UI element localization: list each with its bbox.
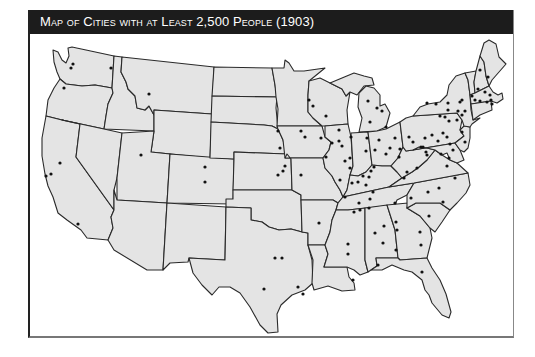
city-dot: [421, 145, 424, 148]
city-dot: [366, 99, 369, 102]
city-dot: [380, 109, 383, 112]
city-dot: [109, 66, 112, 69]
us-map: [2, 0, 535, 357]
city-dot: [486, 75, 489, 78]
city-dot: [411, 140, 414, 143]
city-dot: [371, 190, 374, 193]
city-dot: [324, 114, 327, 117]
city-dot: [456, 109, 459, 112]
city-dot: [460, 98, 463, 101]
city-dot: [424, 150, 427, 153]
city-dot: [373, 148, 376, 151]
city-dot: [489, 98, 492, 101]
city-dot: [203, 180, 206, 183]
city-dot: [348, 166, 351, 169]
city-dot: [367, 206, 370, 209]
city-dot: [398, 147, 401, 150]
city-dot: [376, 263, 379, 266]
city-dot: [460, 113, 463, 116]
city-dot: [463, 109, 466, 112]
city-dot: [476, 87, 479, 90]
map-frame: Map of Cities with at Least 2,500 People…: [28, 10, 514, 338]
city-dot: [349, 135, 352, 138]
city-dot: [418, 230, 421, 233]
city-dot: [455, 118, 458, 121]
city-dot: [451, 148, 454, 151]
city-dot: [394, 220, 397, 223]
city-dot: [448, 142, 451, 145]
city-dot: [273, 256, 276, 259]
city-dot: [44, 174, 47, 177]
state-iowa: [277, 126, 331, 158]
city-dot: [343, 195, 346, 198]
city-dot: [388, 146, 391, 149]
city-dot: [324, 155, 327, 158]
city-dot: [430, 133, 433, 136]
city-dot: [395, 228, 398, 231]
city-dot: [384, 152, 387, 155]
city-dot: [203, 165, 206, 168]
city-dot: [434, 102, 437, 105]
city-dot: [439, 152, 442, 155]
city-dot: [437, 186, 440, 189]
city-dot: [278, 146, 281, 149]
city-dot: [346, 252, 349, 255]
state-florida: [371, 258, 451, 318]
city-dot: [350, 181, 353, 184]
city-dot: [49, 172, 52, 175]
city-dot: [76, 222, 79, 225]
city-dot: [447, 156, 450, 159]
city-dot: [299, 129, 302, 132]
city-dot: [478, 68, 481, 71]
city-dot: [356, 180, 359, 183]
city-dot: [441, 200, 444, 203]
city-dot: [473, 98, 476, 101]
city-dot: [311, 104, 314, 107]
city-dot: [485, 100, 488, 103]
city-dot: [317, 221, 320, 224]
city-dot: [307, 98, 310, 101]
city-dot: [69, 66, 72, 69]
city-dot: [348, 156, 351, 159]
city-dot: [397, 155, 400, 158]
city-dot: [409, 196, 412, 199]
state-colorado: [167, 154, 234, 204]
city-dot: [436, 139, 439, 142]
city-dot: [438, 114, 441, 117]
city-dot: [369, 169, 372, 172]
city-dot: [490, 102, 493, 105]
city-dot: [364, 183, 367, 186]
city-dot: [299, 173, 302, 176]
city-dot: [453, 176, 456, 179]
city-dot: [352, 210, 355, 213]
city-dot: [447, 119, 450, 122]
state-arizona: [108, 190, 167, 270]
state-connecticut: [471, 101, 492, 120]
city-dot: [407, 135, 410, 138]
city-dot: [337, 139, 340, 142]
city-dot: [303, 135, 306, 138]
city-dot: [446, 101, 449, 104]
city-dot: [488, 93, 491, 96]
city-dot: [296, 285, 299, 288]
city-dot: [460, 130, 463, 133]
city-dot: [427, 214, 430, 217]
city-dot: [425, 153, 428, 156]
city-dot: [346, 242, 349, 245]
city-dot: [337, 128, 340, 131]
city-dot: [441, 131, 444, 134]
city-dot: [415, 166, 418, 169]
city-dot: [62, 86, 65, 89]
city-dot: [276, 129, 279, 132]
states: [42, 40, 506, 333]
city-dot: [357, 201, 360, 204]
city-dot: [443, 115, 446, 118]
city-dot: [368, 120, 371, 123]
city-dot: [319, 136, 322, 139]
city-dot: [423, 136, 426, 139]
city-dot: [367, 175, 370, 178]
city-dot: [364, 149, 367, 152]
city-dot: [330, 141, 333, 144]
state-wyoming: [151, 110, 212, 158]
city-dot: [58, 161, 61, 164]
